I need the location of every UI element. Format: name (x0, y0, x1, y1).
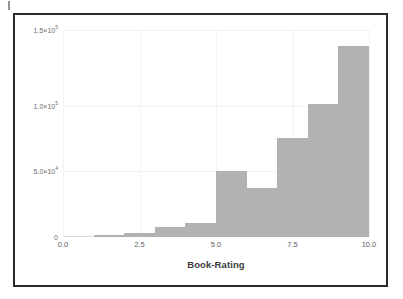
bar-9-10 (338, 46, 369, 237)
bar-3-4 (155, 227, 186, 238)
bar-7-8 (277, 138, 308, 237)
scan-artifact-mark (8, 1, 10, 10)
chart-screenshot: 1.5×105 1.0×105 5.0×104 0 (0, 0, 403, 299)
x-tick-7_5: 7.5 (287, 240, 297, 249)
plot-area (63, 30, 369, 237)
gridline-x-10 (369, 30, 370, 237)
x-tick-5: 5.0 (211, 240, 221, 249)
bar-5-6 (216, 171, 247, 237)
y-tick-100000: 1.0×105 (34, 102, 58, 109)
y-tick-50000: 5.0×104 (34, 168, 58, 175)
x-tick-2_5: 2.5 (134, 240, 144, 249)
x-axis-tick-labels: 0.0 2.5 5.0 7.5 10.0 (63, 240, 369, 254)
bar-8-9 (308, 104, 339, 237)
bar-2-3 (124, 233, 155, 237)
x-axis-title: Book-Rating (63, 259, 369, 270)
bar-4-5 (185, 223, 216, 237)
plot-inner (63, 30, 369, 237)
y-axis-tick-labels: 1.5×105 1.0×105 5.0×104 0 (0, 30, 58, 237)
x-tick-10: 10.0 (362, 240, 377, 249)
x-tick-0: 0.0 (58, 240, 68, 249)
bar-6-7 (247, 188, 278, 237)
histogram-bars (63, 30, 369, 237)
y-tick-150000: 1.5×105 (34, 27, 58, 34)
bar-1-2 (94, 235, 125, 237)
